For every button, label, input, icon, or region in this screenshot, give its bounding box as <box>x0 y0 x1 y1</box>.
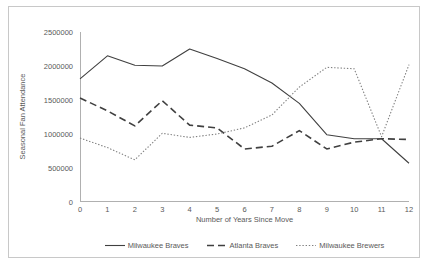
legend-swatch <box>105 242 125 249</box>
y-tick-label: 2500000 <box>15 28 73 37</box>
y-axis-title: Seasonal Fan Attendance <box>18 42 27 192</box>
legend-item[interactable]: Milwaukee Brewers <box>296 241 384 250</box>
legend-label: Atlanta Braves <box>230 241 279 250</box>
x-tick-label: 0 <box>70 205 90 214</box>
legend-label: Milwaukee Brewers <box>319 241 384 250</box>
plot-area <box>80 32 409 202</box>
x-tick-label: 9 <box>317 205 337 214</box>
x-tick-label: 6 <box>235 205 255 214</box>
x-tick-label: 3 <box>152 205 172 214</box>
legend-item[interactable]: Milwaukee Braves <box>105 241 189 250</box>
x-tick-label: 1 <box>97 205 117 214</box>
x-tick-label: 10 <box>344 205 364 214</box>
x-tick-label: 4 <box>180 205 200 214</box>
chart-frame: 25000002000000150000010000005000000 0123… <box>8 6 420 258</box>
series-lines <box>80 32 409 202</box>
chart-legend: Milwaukee BravesAtlanta BravesMilwaukee … <box>80 241 409 250</box>
x-tick-label: 5 <box>207 205 227 214</box>
series-line <box>80 65 409 160</box>
x-axis-title: Number of Years Since Move <box>80 215 409 224</box>
x-tick-label: 12 <box>399 205 419 214</box>
x-tick-label: 7 <box>262 205 282 214</box>
series-line <box>80 49 409 163</box>
legend-swatch <box>207 242 227 249</box>
legend-swatch <box>296 242 316 249</box>
x-tick-label: 8 <box>289 205 309 214</box>
series-line <box>80 98 409 149</box>
y-tick-label: 0 <box>15 198 73 207</box>
x-tick-label: 2 <box>125 205 145 214</box>
legend-item[interactable]: Atlanta Braves <box>207 241 279 250</box>
x-tick-label: 11 <box>372 205 392 214</box>
legend-label: Milwaukee Braves <box>128 241 189 250</box>
